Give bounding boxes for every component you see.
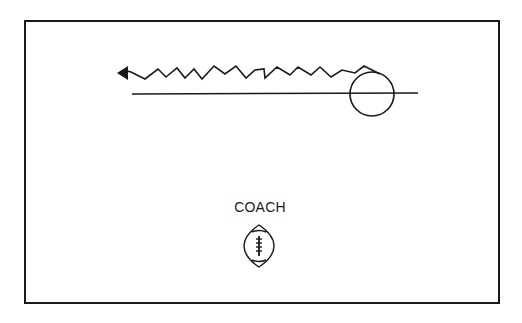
zigzag-route — [127, 66, 380, 79]
play-diagram — [0, 0, 522, 323]
line-of-scrimmage — [132, 93, 418, 94]
arrowhead-icon — [117, 66, 128, 80]
football-icon — [244, 225, 274, 267]
coach-label: COACH — [228, 199, 292, 215]
